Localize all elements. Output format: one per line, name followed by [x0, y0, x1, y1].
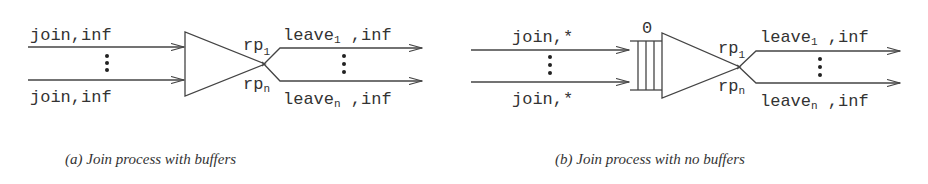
input-label-n: join,*: [512, 90, 573, 109]
caption-a: (a) Join process with buffers: [65, 151, 236, 168]
buffer-size-label: 0: [642, 19, 652, 38]
ellipsis-icon: [818, 57, 822, 77]
input-label-1: join,*: [512, 28, 573, 47]
input-label-n: join,inf: [30, 88, 112, 107]
ellipsis-icon: [342, 54, 346, 74]
buffer-queue: [630, 41, 662, 90]
output-label-1: leave1 ,inf: [283, 26, 392, 46]
output-label-n: leaven ,inf: [760, 92, 869, 112]
input-label-1: join,inf: [30, 26, 112, 45]
caption-b: (b) Join process with no buffers: [555, 151, 745, 168]
panel-a: join,inf join,inf rp1 rpn leave1 ,inf le…: [28, 26, 422, 168]
port-label-1: rp1: [243, 36, 270, 58]
ellipsis-icon: [548, 55, 552, 75]
output-arrow-n: [262, 62, 422, 81]
ellipsis-icon: [105, 54, 109, 72]
port-label-1: rp1: [718, 39, 745, 61]
join-process-diagram: join,inf join,inf rp1 rpn leave1 ,inf le…: [0, 0, 928, 184]
output-label-1: leave1 ,inf: [760, 28, 869, 48]
panel-b: join,* join,* 0 rp1 rpn leave1 ,inf leav…: [471, 19, 900, 168]
port-label-n: rpn: [718, 77, 745, 97]
output-label-n: leaven ,inf: [283, 90, 392, 110]
port-label-n: rpn: [243, 75, 270, 95]
output-arrow-1: [262, 48, 422, 66]
